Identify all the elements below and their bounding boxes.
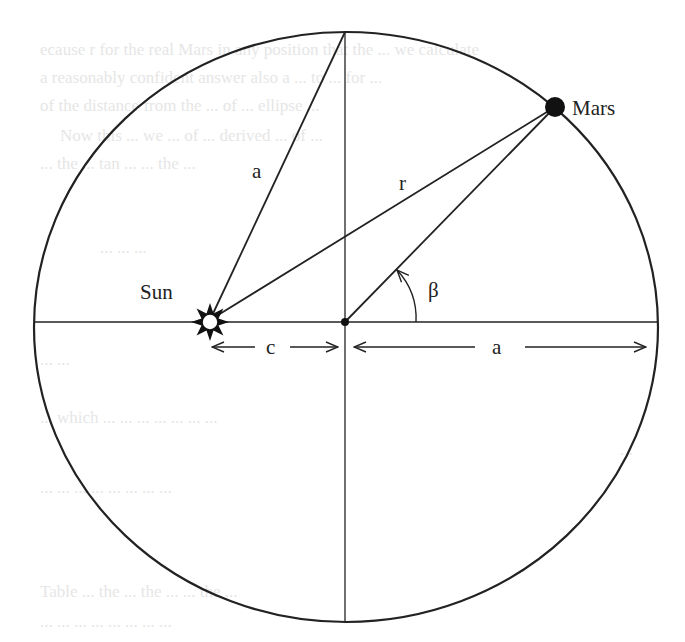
- orbit-ellipse: [34, 32, 658, 622]
- mars-label: Mars: [572, 96, 615, 120]
- a-slant-label: a: [252, 159, 262, 183]
- c-label: c: [266, 335, 275, 359]
- sun-icon: [191, 303, 229, 341]
- sun-to-top-line: [210, 32, 345, 320]
- a-bottom-label: a: [492, 335, 502, 359]
- center-dot: [341, 318, 349, 326]
- sun-to-mars-line: [210, 107, 555, 320]
- sun-label: Sun: [140, 280, 173, 304]
- beta-label: β: [428, 278, 439, 302]
- r-label: r: [399, 171, 406, 195]
- beta-angle-arc: [397, 270, 416, 322]
- orbit-diagram: Sun Mars a r β c a: [0, 0, 685, 642]
- center-to-mars-line: [345, 107, 555, 322]
- mars-icon: [545, 97, 565, 117]
